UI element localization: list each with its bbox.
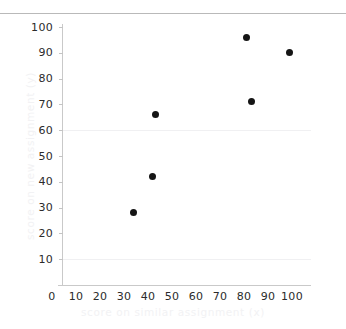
y-axis-tick-label: 60	[38, 125, 53, 136]
scatter-point	[152, 111, 159, 118]
scatter-plot-figure: 1020304050607080901000102030405060708090…	[0, 0, 346, 329]
y-axis-tick-label: 40	[38, 176, 53, 187]
y-axis-tick	[59, 79, 63, 80]
scatter-point	[286, 49, 293, 56]
y-axis-tick	[59, 130, 63, 131]
scatter-point	[248, 98, 255, 105]
y-axis-tick	[59, 27, 63, 28]
x-axis-tick-label: 100	[275, 291, 309, 302]
y-axis-tick-label: 10	[38, 254, 53, 265]
scatter-point	[243, 34, 250, 41]
y-axis-tick-label: 30	[38, 202, 53, 213]
y-axis-line	[62, 24, 63, 286]
y-axis-tick-label: 90	[38, 47, 53, 58]
y-axis-tick	[59, 53, 63, 54]
y-axis-tick	[59, 104, 63, 105]
y-axis-tick-label: 70	[38, 99, 53, 110]
x-axis-line	[58, 285, 311, 286]
y-axis-title: score on new assignment (y)	[24, 31, 36, 281]
y-axis-tick	[59, 182, 63, 183]
gridline-horizontal	[62, 259, 311, 260]
y-axis-tick	[59, 233, 63, 234]
y-axis-tick-label: 20	[38, 228, 53, 239]
gridline-horizontal	[62, 130, 311, 131]
y-axis-tick-label: 50	[38, 151, 53, 162]
y-axis-tick	[59, 259, 63, 260]
scatter-point	[130, 209, 137, 216]
x-axis-title: score on similar assignment (x)	[0, 306, 346, 318]
y-axis-tick-label: 80	[38, 73, 53, 84]
y-axis-tick	[59, 208, 63, 209]
plot-area: 1020304050607080901000102030405060708090…	[0, 0, 346, 329]
scatter-point	[149, 173, 156, 180]
y-axis-tick	[59, 156, 63, 157]
